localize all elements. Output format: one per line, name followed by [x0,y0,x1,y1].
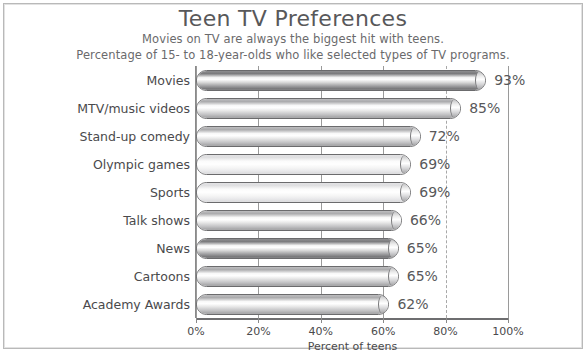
bar-value-label: 72% [429,126,460,147]
chart-container: Teen TV Preferences Movies on TV are alw… [0,0,586,364]
bar-gradient [197,155,410,174]
bar-gradient [197,183,410,202]
x-axis-title: Percent of teens [196,340,509,353]
category-label: Cartoons [8,269,190,284]
bar-body [196,70,486,91]
x-tick-label-40: 40% [301,325,341,338]
bar-gradient [197,71,485,90]
x-tick-mark-20 [258,318,259,323]
bar-value-label: 93% [494,70,525,91]
bar-body [196,182,411,203]
bar-gradient [197,127,420,146]
category-label: Stand-up comedy [8,129,190,144]
bar [196,70,486,91]
x-tick-label-80: 80% [426,325,466,338]
title-block: Teen TV Preferences Movies on TV are alw… [0,6,586,63]
bar-end-cap [388,267,398,286]
category-label: Movies [8,73,190,88]
x-tick-mark-0 [196,318,197,323]
bar-value-label: 69% [419,154,450,175]
x-tick-label-0: 0% [176,325,216,338]
bar-body [196,266,399,287]
x-tick-label-60: 60% [363,325,403,338]
category-label: News [8,241,190,256]
bar [196,154,411,175]
bar-value-label: 69% [419,182,450,203]
bar [196,238,399,259]
bar-body [196,238,399,259]
bar-value-label: 66% [410,210,441,231]
category-label: MTV/music videos [8,101,190,116]
bar [196,126,421,147]
bar [196,210,402,231]
bar-value-label: 85% [469,98,500,119]
bar-value-label: 65% [407,266,438,287]
bar-gradient [197,267,398,286]
x-tick-mark-60 [383,318,384,323]
bar [196,294,389,315]
bar-end-cap [410,127,420,146]
bar-gradient [197,99,460,118]
category-label: Academy Awards [8,297,190,312]
x-tick-label-20: 20% [238,325,278,338]
bar-value-label: 62% [397,294,428,315]
bar [196,182,411,203]
bar-value-label: 65% [407,238,438,259]
chart-subtitle-line-1: Movies on TV are always the biggest hit … [0,31,586,47]
bar-gradient [197,295,388,314]
category-label: Sports [8,185,190,200]
bar [196,266,399,287]
x-tick-mark-100 [508,318,509,323]
bar-gradient [197,239,398,258]
bar-body [196,126,421,147]
x-tick-mark-40 [321,318,322,323]
x-tick-label-100: 100% [488,325,528,338]
bar-gradient [197,211,401,230]
bar-body [196,294,389,315]
x-axis-line [196,318,509,320]
chart-title: Teen TV Preferences [0,6,586,31]
chart-subtitle-line-2: Percentage of 15- to 18-year-olds who li… [0,47,586,63]
x-tick-mark-80 [446,318,447,323]
gridline-100 [508,66,509,318]
bar [196,98,461,119]
bar-body [196,210,402,231]
bar-end-cap [391,211,401,230]
bar-end-cap [388,239,398,258]
category-label: Talk shows [8,213,190,228]
category-label: Olympic games [8,157,190,172]
bar-body [196,154,411,175]
bar-body [196,98,461,119]
